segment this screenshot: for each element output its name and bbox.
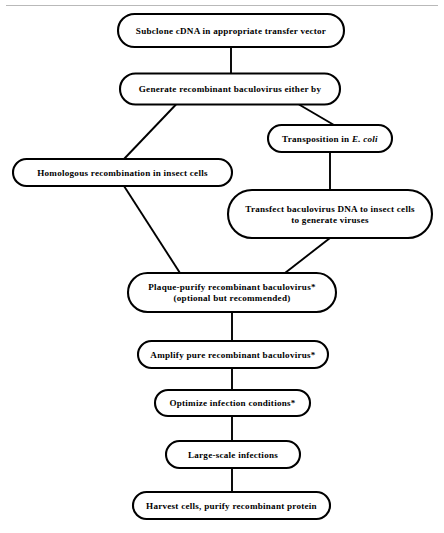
- label-line: to generate viruses: [291, 215, 369, 225]
- label-line: Homologous recombination in insect cells: [37, 168, 208, 178]
- flowchart-canvas: Subclone cDNA in appropriate transfer ve…: [0, 0, 444, 533]
- connector-homologous-to-plaque: [124, 186, 180, 273]
- connector-transfect-to-plaque: [285, 238, 330, 273]
- label-line: Generate recombinant baculovirus either …: [139, 84, 322, 94]
- node-label-subclone: Subclone cDNA in appropriate transfer ve…: [136, 26, 326, 36]
- label-line: Large-scale infections: [188, 450, 278, 460]
- node-largescale: Large-scale infections: [166, 441, 300, 468]
- flowchart-figure: Subclone cDNA in appropriate transfer ve…: [0, 0, 444, 533]
- node-harvest: Harvest cells, purify recombinant protei…: [133, 492, 330, 519]
- connector-generate-to-transposition: [299, 105, 334, 126]
- node-label-transposition: Transposition in E. coli: [282, 134, 378, 144]
- label-line: Transfect baculovirus DNA to insect cell…: [245, 204, 415, 214]
- node-subclone: Subclone cDNA in appropriate transfer ve…: [118, 14, 344, 47]
- node-generate: Generate recombinant baculovirus either …: [120, 74, 340, 105]
- node-label-generate: Generate recombinant baculovirus either …: [139, 84, 322, 94]
- connector-generate-to-homologous: [124, 105, 176, 160]
- label-text-italic-species: E. coli: [351, 134, 378, 144]
- node-optimize: Optimize infection conditions*: [155, 390, 310, 416]
- label-line: (optional but recommended): [174, 293, 291, 303]
- label-text-plain: Transposition in: [282, 134, 352, 144]
- label-line: Amplify pure recombinant baculovirus*: [150, 350, 315, 360]
- node-transfect: Transfect baculovirus DNA to insect cell…: [228, 190, 432, 238]
- label-line: Harvest cells, purify recombinant protei…: [146, 501, 317, 511]
- node-plaque: Plaque-purify recombinant baculovirus*(o…: [128, 273, 336, 312]
- node-label-homologous: Homologous recombination in insect cells: [37, 168, 208, 178]
- label-line: Subclone cDNA in appropriate transfer ve…: [136, 26, 326, 36]
- label-line: Optimize infection conditions*: [169, 398, 295, 408]
- node-label-harvest: Harvest cells, purify recombinant protei…: [146, 501, 317, 511]
- node-label-amplify: Amplify pure recombinant baculovirus*: [150, 350, 315, 360]
- node-homologous: Homologous recombination in insect cells: [13, 159, 232, 186]
- node-transposition: Transposition in E. coli: [268, 125, 392, 152]
- node-label-largescale: Large-scale infections: [188, 450, 278, 460]
- flowchart-nodes-group: Subclone cDNA in appropriate transfer ve…: [13, 14, 432, 519]
- label-line: Plaque-purify recombinant baculovirus*: [148, 282, 316, 292]
- node-amplify: Amplify pure recombinant baculovirus*: [138, 341, 328, 368]
- node-label-optimize: Optimize infection conditions*: [169, 398, 295, 408]
- connector-lines-group: [124, 47, 334, 492]
